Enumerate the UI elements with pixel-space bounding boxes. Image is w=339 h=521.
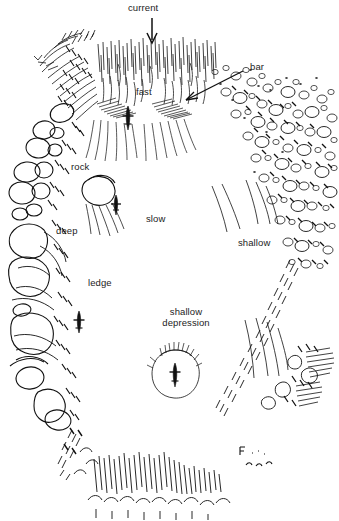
label-shallow-depression-line2: depression (140, 317, 232, 328)
label-slow: slow (146, 213, 165, 224)
diagram-artwork (0, 0, 339, 521)
label-ledge: ledge (88, 277, 112, 288)
label-rock: rock (71, 161, 89, 172)
label-bar: bar (250, 61, 264, 72)
label-deep: deep (56, 225, 78, 236)
label-fast: fast (136, 86, 152, 97)
label-shallow: shallow (238, 237, 270, 248)
label-shallow-depression-line1: shallow (140, 306, 232, 317)
stream-pool-diagram: current bar fast rock deep slow shallow … (0, 0, 339, 521)
label-current: current (128, 2, 158, 13)
label-shallow-depression: shallow depression (140, 306, 232, 328)
